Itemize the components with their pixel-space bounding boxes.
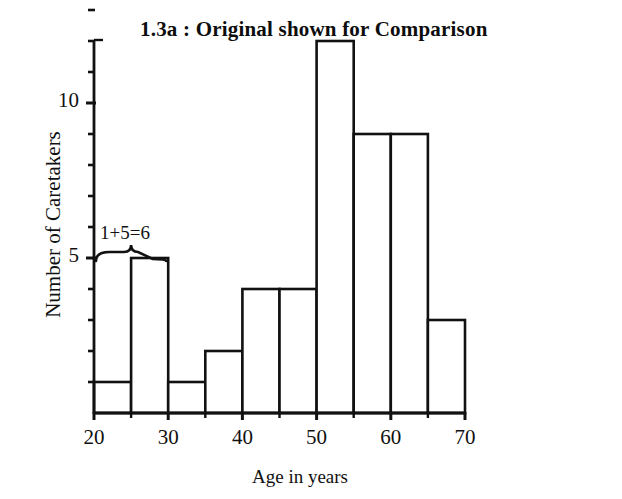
y-tick-label: 5 (9, 243, 79, 268)
x-tick-label: 50 (292, 425, 342, 450)
histogram-bar (428, 320, 465, 413)
x-tick-label: 70 (440, 425, 490, 450)
histogram-bar (94, 382, 131, 413)
histogram-figure: 1.3a : Original shown for Comparison Num… (0, 0, 622, 499)
annotation-label: 1+5=6 (100, 222, 150, 244)
histogram-bar (391, 134, 428, 413)
x-tick-label: 60 (366, 425, 416, 450)
histogram-bar (354, 134, 391, 413)
histogram-bar (280, 289, 317, 413)
histogram-bar (168, 382, 205, 413)
histogram-bar (205, 351, 242, 413)
histogram-bar (317, 41, 354, 413)
histogram-bar (242, 289, 279, 413)
y-tick-label: 10 (9, 88, 79, 113)
histogram-bar (131, 258, 168, 413)
x-tick-label: 30 (143, 425, 193, 450)
x-tick-label: 20 (69, 425, 119, 450)
x-tick-label: 40 (217, 425, 267, 450)
